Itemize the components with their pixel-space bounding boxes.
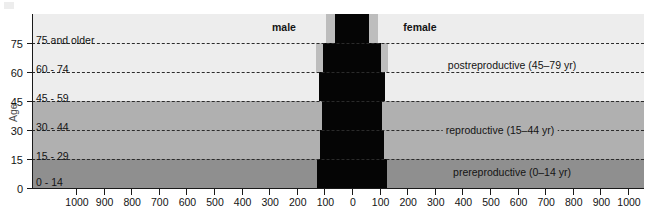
label-female: female xyxy=(403,21,436,33)
bar-male-60-74 xyxy=(323,43,352,72)
x-tick-label-p500: 500 xyxy=(482,196,500,208)
x-tick-0: 0 xyxy=(352,189,353,195)
plot-area xyxy=(32,14,644,188)
population-pyramid-figure: Age xyxy=(0,0,646,211)
bar-row-45-59 xyxy=(32,72,644,101)
bar-male-30-44 xyxy=(322,101,352,130)
x-tick-label-p600: 600 xyxy=(510,196,528,208)
x-tick-label-n200: 200 xyxy=(289,196,307,208)
x-tick-p200: 200 xyxy=(407,189,408,195)
age-class-label-45-59: 45 - 59 xyxy=(36,92,69,104)
age-class-label-15-29: 15 - 29 xyxy=(36,150,69,162)
x-tick-p900: 900 xyxy=(600,189,601,195)
x-tick-n1000: 1000 xyxy=(76,189,77,195)
x-tick-p400: 400 xyxy=(462,189,463,195)
x-tick-label-n700: 700 xyxy=(151,196,169,208)
x-tick-label-n800: 800 xyxy=(123,196,141,208)
y-tick-label-60: 60 xyxy=(11,67,23,79)
annotation-postreproductive: postreproductive (45–79 yr) xyxy=(445,59,579,71)
x-tick-label-n100: 100 xyxy=(317,196,335,208)
bar-female-0-14 xyxy=(352,159,387,188)
x-tick-label-p100: 100 xyxy=(372,196,390,208)
x-tick-n800: 800 xyxy=(131,189,132,195)
x-tick-n700: 700 xyxy=(159,189,160,195)
x-tick-label-p900: 900 xyxy=(593,196,611,208)
x-tick-n500: 500 xyxy=(214,189,215,195)
x-tick-label-n500: 500 xyxy=(206,196,224,208)
x-tick-label-p200: 200 xyxy=(399,196,417,208)
age-class-label-30-44: 30 - 44 xyxy=(36,121,69,133)
y-tick-15: 15 xyxy=(27,159,33,160)
y-tick-30: 30 xyxy=(27,130,33,131)
x-tick-p800: 800 xyxy=(573,189,574,195)
x-tick-label-n400: 400 xyxy=(234,196,252,208)
age-class-label-0-14: 0 - 14 xyxy=(36,176,63,188)
scan-artifact xyxy=(4,2,14,9)
x-tick-label-n600: 600 xyxy=(179,196,197,208)
gridline-45 xyxy=(32,101,644,102)
age-class-label-75-and-older: 75 and older xyxy=(36,34,94,46)
x-tick-n200: 200 xyxy=(297,189,298,195)
bar-female-45-59 xyxy=(352,72,385,101)
y-tick-label-45: 45 xyxy=(11,96,23,108)
x-tick-p600: 600 xyxy=(518,189,519,195)
y-tick-45: 45 xyxy=(27,101,33,102)
bar-male-45-59 xyxy=(319,72,352,101)
x-tick-label-n900: 900 xyxy=(96,196,114,208)
y-tick-label-0: 0 xyxy=(17,183,23,195)
x-tick-p700: 700 xyxy=(545,189,546,195)
bar-male-15-29 xyxy=(320,130,352,159)
gridline-60 xyxy=(32,72,644,73)
y-axis: 0 15 30 45 60 75 xyxy=(32,14,33,188)
bar-female-30-44 xyxy=(352,101,382,130)
x-tick-p100: 100 xyxy=(380,189,381,195)
x-tick-label-n1000: 1000 xyxy=(65,196,88,208)
x-tick-n600: 600 xyxy=(186,189,187,195)
bar-female-75-and-older xyxy=(352,14,369,43)
bar-male-75-and-older xyxy=(335,14,352,43)
x-axis: 1000 900 800 700 600 500 400 300 200 100… xyxy=(32,188,644,189)
y-tick-label-30: 30 xyxy=(11,125,23,137)
x-tick-p300: 300 xyxy=(435,189,436,195)
x-tick-label-n300: 300 xyxy=(261,196,279,208)
x-tick-label-p1000: 1000 xyxy=(617,196,640,208)
annotation-prereproductive: prereproductive (0–14 yr) xyxy=(450,166,574,178)
x-tick-label-p700: 700 xyxy=(537,196,555,208)
x-tick-label-0: 0 xyxy=(350,196,356,208)
age-class-label-60-74: 60 - 74 xyxy=(36,63,69,75)
x-tick-n100: 100 xyxy=(324,189,325,195)
bar-female-15-29 xyxy=(352,130,384,159)
x-tick-n400: 400 xyxy=(242,189,243,195)
bar-female-60-74 xyxy=(352,43,381,72)
bar-male-0-14 xyxy=(317,159,352,188)
y-tick-label-75: 75 xyxy=(11,38,23,50)
x-tick-label-p800: 800 xyxy=(565,196,583,208)
x-tick-label-p400: 400 xyxy=(455,196,473,208)
x-tick-p500: 500 xyxy=(490,189,491,195)
x-tick-p1000: 1000 xyxy=(628,189,629,195)
x-tick-label-p300: 300 xyxy=(427,196,445,208)
gridline-15 xyxy=(32,159,644,160)
annotation-reproductive: reproductive (15–44 yr) xyxy=(443,124,558,136)
x-tick-n300: 300 xyxy=(269,189,270,195)
label-male: male xyxy=(272,21,296,33)
y-tick-60: 60 xyxy=(27,72,33,73)
y-tick-75: 75 xyxy=(27,43,33,44)
gridline-75 xyxy=(32,43,644,44)
bar-row-75-and-older xyxy=(32,14,644,43)
x-tick-n900: 900 xyxy=(104,189,105,195)
y-tick-label-15: 15 xyxy=(11,154,23,166)
